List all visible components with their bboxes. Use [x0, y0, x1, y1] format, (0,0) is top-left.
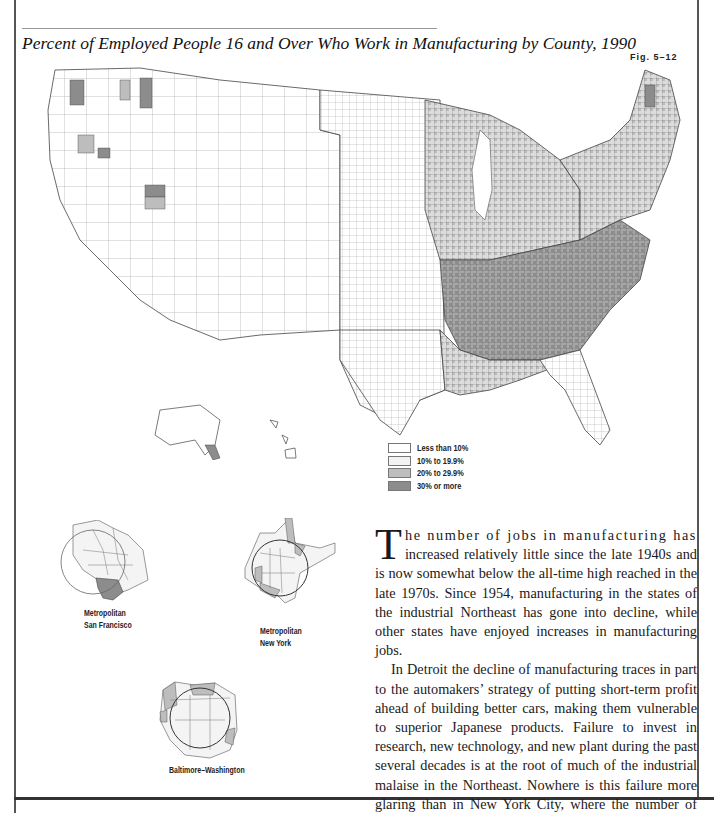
map-legend: Less than 10% 10% to 19.9% 20% to 29.9% …: [388, 442, 480, 492]
legend-item-20-to-29: 20% to 29.9%: [388, 467, 480, 480]
inset-caption-line2: New York: [260, 637, 326, 649]
legend-item-less-than-10: Less than 10%: [388, 442, 480, 455]
inset-caption-line1: Baltimore–Washington: [169, 764, 245, 776]
legend-item-10-to-19: 10% to 19.9%: [388, 455, 480, 468]
legend-label: 10% to 19.9%: [417, 456, 464, 466]
inset-caption: Metropolitan New York: [260, 625, 326, 649]
title-rule: [22, 28, 437, 29]
paragraph-1: T he number of jobs in manufacturing has…: [375, 526, 697, 660]
us-county-map: [20, 60, 700, 460]
inset-caption-line2: San Francisco: [84, 619, 145, 631]
legend-swatch: [388, 481, 411, 491]
inset-baltimore-washington: Baltimore–Washington: [155, 680, 261, 776]
inset-caption: Metropolitan San Francisco: [84, 607, 145, 631]
inset-caption-line1: Metropolitan: [260, 625, 326, 637]
legend-swatch: [388, 443, 411, 453]
paragraph-2: In Detroit the decline of manufacturing …: [375, 660, 697, 813]
us-map-svg: [20, 60, 700, 460]
legend-swatch: [388, 456, 411, 466]
legend-label: 30% or more: [417, 481, 461, 491]
article-body: T he number of jobs in manufacturing has…: [375, 526, 697, 813]
legend-swatch: [388, 468, 411, 478]
page-border-left: [14, 0, 16, 813]
drop-cap: T: [375, 528, 402, 562]
inset-san-francisco: Metropolitan San Francisco: [58, 520, 158, 631]
ny-inset-map: [240, 518, 340, 623]
legend-label: Less than 10%: [417, 443, 468, 453]
legend-item-30-or-more: 30% or more: [388, 480, 480, 493]
paragraph-1-rest: increased relatively little since the la…: [375, 546, 697, 658]
chart-title: Percent of Employed People 16 and Over W…: [22, 33, 636, 54]
inset-new-york: Metropolitan New York: [240, 518, 340, 649]
inset-caption-line1: Metropolitan: [84, 607, 145, 619]
legend-label: 20% to 29.9%: [417, 468, 464, 478]
bw-inset-map: [155, 680, 245, 760]
paragraph-1-first-line: he number of jobs in manufacturing has: [405, 527, 697, 543]
inset-caption: Baltimore–Washington: [169, 764, 245, 776]
sf-inset-map: [58, 520, 158, 605]
